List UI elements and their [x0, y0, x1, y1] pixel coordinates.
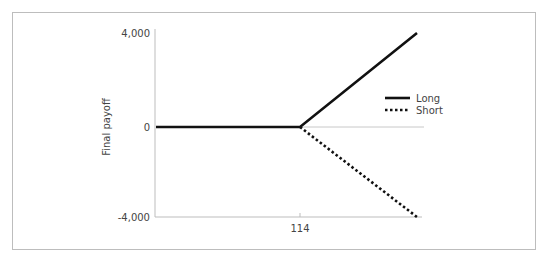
y-tick-neg4000: -4,000 [118, 212, 150, 223]
y-axis-label: Final payoff [101, 97, 112, 156]
payoff-chart: 4,000 0 -4,000 114 Final payoff Long Sho… [0, 0, 547, 263]
y-tick-0: 0 [144, 122, 150, 133]
legend-short-label: Short [416, 105, 443, 116]
series-short-line [300, 127, 417, 217]
y-tick-4000: 4,000 [121, 28, 150, 39]
legend-long-label: Long [416, 93, 440, 104]
series-long-line [156, 33, 417, 127]
x-tick-114: 114 [290, 223, 309, 234]
